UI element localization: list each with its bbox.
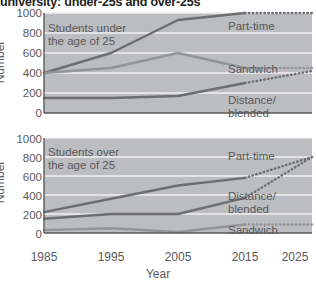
x-axis: 1985 1995 2005 2015 2025 Year bbox=[0, 250, 316, 284]
x-axis-label: Year bbox=[0, 267, 316, 281]
chart-panel-under-25: Number 1000 800 600 400 200 0 Students u… bbox=[0, 8, 316, 130]
x-tick: 2015 bbox=[232, 250, 259, 264]
series-label-distance-top: Distance/ blended bbox=[228, 94, 276, 120]
series-label-part-time-bottom: Part-time bbox=[228, 150, 275, 163]
annotation-under-25: Students under the age of 25 bbox=[48, 22, 126, 48]
x-tick: 2005 bbox=[165, 250, 192, 264]
chart-panel-over-25: Number 1000 800 600 400 200 0 Students o… bbox=[0, 134, 316, 250]
series-label-distance-bottom: Distance/ blended bbox=[228, 190, 276, 216]
series-label-sandwich-bottom: Sandwich bbox=[228, 224, 278, 237]
x-tick: 1995 bbox=[98, 250, 125, 264]
x-tick: 2025 bbox=[282, 250, 309, 264]
annotation-over-25: Students over the age of 25 bbox=[48, 146, 119, 172]
series-label-sandwich-top: Sandwich bbox=[228, 63, 278, 76]
series-label-part-time-top: Part-time bbox=[228, 20, 275, 33]
x-tick: 1985 bbox=[31, 250, 58, 264]
figure: university: under-25s and over-25s Numbe… bbox=[0, 0, 316, 284]
